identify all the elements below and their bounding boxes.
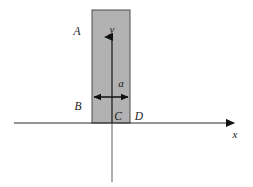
diagram-svg: A B C D a y x (0, 0, 253, 187)
x-axis-label: x (232, 128, 238, 140)
width-dimension-label: a (118, 77, 124, 89)
corner-label-b: B (74, 100, 81, 112)
corner-label-a: A (72, 25, 81, 37)
diagram-canvas: A B C D a y x (0, 0, 253, 187)
corner-label-d: D (134, 110, 144, 122)
y-axis-label: y (109, 23, 115, 35)
corner-label-c: C (114, 110, 122, 122)
